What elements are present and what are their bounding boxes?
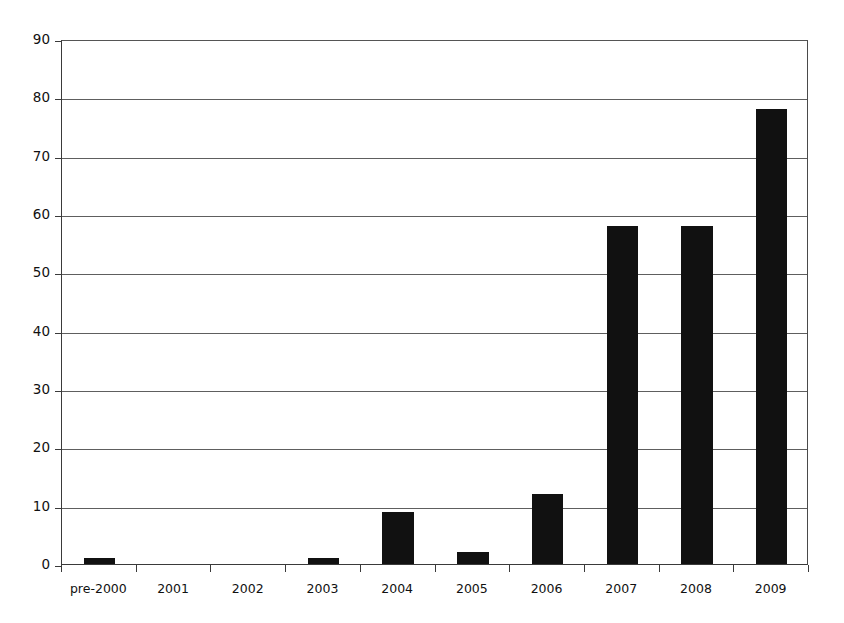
y-axis-label: 80	[33, 91, 50, 105]
y-axis-tick	[55, 333, 62, 334]
x-axis-label: 2001	[136, 583, 211, 596]
x-axis-tick	[509, 565, 510, 572]
y-axis-tick	[55, 158, 62, 159]
x-axis-label: 2009	[733, 583, 808, 596]
x-axis-ticks	[61, 565, 808, 575]
x-axis-label: 2002	[210, 583, 285, 596]
y-axis-tick	[55, 508, 62, 509]
y-axis-tick	[55, 449, 62, 450]
y-axis-tick	[55, 274, 62, 275]
y-axis-label: 20	[33, 441, 50, 455]
plot-area	[61, 40, 808, 565]
bar	[457, 552, 488, 564]
bar	[84, 558, 115, 564]
y-axis-tick	[55, 391, 62, 392]
x-axis-tick	[584, 565, 585, 572]
gridline	[62, 216, 807, 217]
x-axis-tick	[210, 565, 211, 572]
x-axis-tick	[360, 565, 361, 572]
y-axis-label: 50	[33, 266, 50, 280]
x-axis-tick	[733, 565, 734, 572]
x-axis-label: 2007	[584, 583, 659, 596]
bar	[308, 558, 339, 564]
x-axis-label: 2005	[435, 583, 510, 596]
y-axis-tick	[55, 99, 62, 100]
y-axis-label: 10	[33, 500, 50, 514]
x-axis: pre-200020012002200320042005200620072008…	[61, 583, 808, 607]
y-axis-label: 70	[33, 150, 50, 164]
gridline	[62, 99, 807, 100]
bar	[532, 494, 563, 564]
bar	[382, 512, 413, 565]
x-axis-tick	[61, 565, 62, 572]
x-axis-tick	[659, 565, 660, 572]
bar-chart: 0102030405060708090 pre-2000200120022003…	[0, 0, 844, 623]
x-axis-label: 2006	[509, 583, 584, 596]
bar	[756, 109, 787, 564]
x-axis-label: 2008	[659, 583, 734, 596]
y-axis-label: 30	[33, 383, 50, 397]
y-axis: 0102030405060708090	[0, 0, 50, 623]
y-axis-label: 0	[41, 558, 50, 572]
x-axis-label: pre-2000	[61, 583, 136, 596]
x-axis-tick	[808, 565, 809, 572]
bar	[607, 226, 638, 564]
y-axis-label: 40	[33, 325, 50, 339]
y-axis-label: 60	[33, 208, 50, 222]
gridline	[62, 158, 807, 159]
y-axis-tick	[55, 216, 62, 217]
bar	[681, 226, 712, 564]
x-axis-tick	[435, 565, 436, 572]
y-axis-tick	[55, 41, 62, 42]
x-axis-tick	[285, 565, 286, 572]
x-axis-label: 2003	[285, 583, 360, 596]
x-axis-label: 2004	[360, 583, 435, 596]
x-axis-tick	[136, 565, 137, 572]
y-axis-label: 90	[33, 33, 50, 47]
